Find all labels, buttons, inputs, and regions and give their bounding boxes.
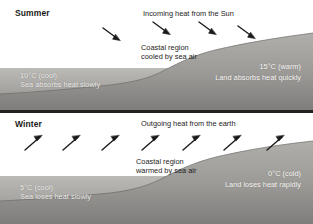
land-description-winter: Land loses heat rapidly	[225, 180, 301, 189]
sea-temperature-label-summer: 10°C (cool)	[20, 71, 57, 80]
sea-description-summer: Sea absorbs heat slowly	[20, 80, 100, 89]
land-description-summer: Land absorbs heat quickly	[215, 73, 301, 82]
coastal-note-summer-line2: cooled by sea air	[141, 52, 197, 61]
coastal-note-winter-line1: Coastal region	[136, 157, 184, 166]
coastal-heat-diagram: Summer Incoming heat from the Sun Coasta…	[0, 0, 313, 224]
panel-winter: Winter Outgoing heat from the earth Coas…	[0, 113, 313, 224]
season-title-summer: Summer	[15, 8, 50, 18]
sea-temperature-label-winter: 5°C (cool)	[20, 183, 53, 192]
season-title-winter: Winter	[15, 119, 42, 129]
coastal-note-winter-line2: warmed by sea air	[136, 166, 196, 175]
heat-flow-label-winter: Outgoing heat from the earth	[141, 119, 236, 128]
coastal-note-summer-line1: Coastal region	[141, 43, 189, 52]
sea-description-winter: Sea loses heat slowly	[20, 192, 91, 201]
panel-summer: Summer Incoming heat from the Sun Coasta…	[0, 0, 313, 110]
land-temperature-label-winter: 0°C (cold)	[268, 169, 301, 178]
land-temperature-label-summer: 15°C (warm)	[259, 62, 301, 71]
heat-flow-label-summer: Incoming heat from the Sun	[143, 9, 234, 18]
